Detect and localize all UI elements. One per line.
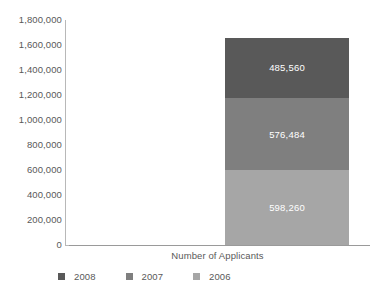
y-axis-tick-label: 600,000	[6, 165, 62, 175]
bar-segment-label-2006: 598,260	[269, 202, 305, 213]
y-axis-tick-label: 1,600,000	[6, 40, 62, 50]
y-axis-tick-label: 0	[6, 240, 62, 250]
y-axis-tick-label: 400,000	[6, 190, 62, 200]
x-axis-line	[65, 245, 370, 246]
y-axis-tick-label: 1,400,000	[6, 65, 62, 75]
legend-item-2007[interactable]: 2007	[126, 271, 164, 282]
y-axis-tick-labels: 1,800,000 1,600,000 1,400,000 1,200,000 …	[0, 0, 62, 295]
legend-swatch-icon	[58, 273, 65, 280]
bar-segment-label-2007: 576,484	[269, 129, 305, 140]
legend-label-2007: 2007	[142, 271, 164, 282]
legend-swatch-icon	[193, 273, 200, 280]
y-axis-tick-label: 800,000	[6, 140, 62, 150]
y-axis-zero-tick	[65, 245, 69, 246]
plot-area: 485,560 576,484 598,260	[65, 20, 370, 245]
x-axis-title: Number of Applicants	[65, 250, 370, 261]
stacked-bar-chart: 1,800,000 1,600,000 1,400,000 1,200,000 …	[0, 0, 384, 295]
y-axis-tick-label: 1,000,000	[6, 115, 62, 125]
legend-swatch-icon	[126, 273, 133, 280]
bar-segment-2007[interactable]: 576,484	[225, 98, 349, 170]
legend-item-2008[interactable]: 2008	[58, 271, 96, 282]
bar-segment-2008[interactable]: 485,560	[225, 38, 349, 99]
y-axis-tick-label: 1,800,000	[6, 15, 62, 25]
legend-label-2008: 2008	[74, 271, 96, 282]
stacked-bar[interactable]: 485,560 576,484 598,260	[225, 38, 349, 246]
chart-legend: 2008 2007 2006	[58, 271, 261, 282]
bar-segment-label-2008: 485,560	[269, 62, 305, 73]
legend-label-2006: 2006	[209, 271, 231, 282]
y-axis-tick-label: 200,000	[6, 215, 62, 225]
bar-segment-2006[interactable]: 598,260	[225, 170, 349, 245]
y-axis-tick-label: 1,200,000	[6, 90, 62, 100]
legend-item-2006[interactable]: 2006	[193, 271, 231, 282]
